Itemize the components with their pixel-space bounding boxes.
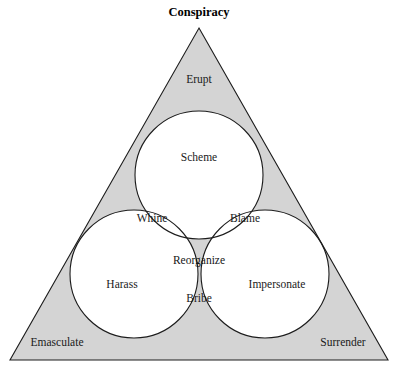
region-label-bribe: Bribe bbox=[186, 292, 212, 304]
venn-diagram-container: Conspiracy Erupt Emasculate Surrender Sc… bbox=[0, 0, 397, 373]
region-label-whine: Whine bbox=[137, 212, 168, 224]
corner-label-surrender: Surrender bbox=[320, 336, 366, 348]
region-label-reorganize: Reorganize bbox=[173, 254, 225, 267]
venn-diagram-svg: Conspiracy Erupt Emasculate Surrender Sc… bbox=[0, 0, 397, 373]
region-label-blame: Blame bbox=[230, 212, 260, 224]
region-label-scheme: Scheme bbox=[181, 151, 217, 163]
region-label-harass: Harass bbox=[106, 278, 138, 290]
diagram-title: Conspiracy bbox=[168, 5, 230, 19]
corner-label-erupt: Erupt bbox=[186, 73, 212, 86]
region-label-impersonate: Impersonate bbox=[249, 278, 306, 291]
corner-label-emasculate: Emasculate bbox=[30, 336, 83, 348]
